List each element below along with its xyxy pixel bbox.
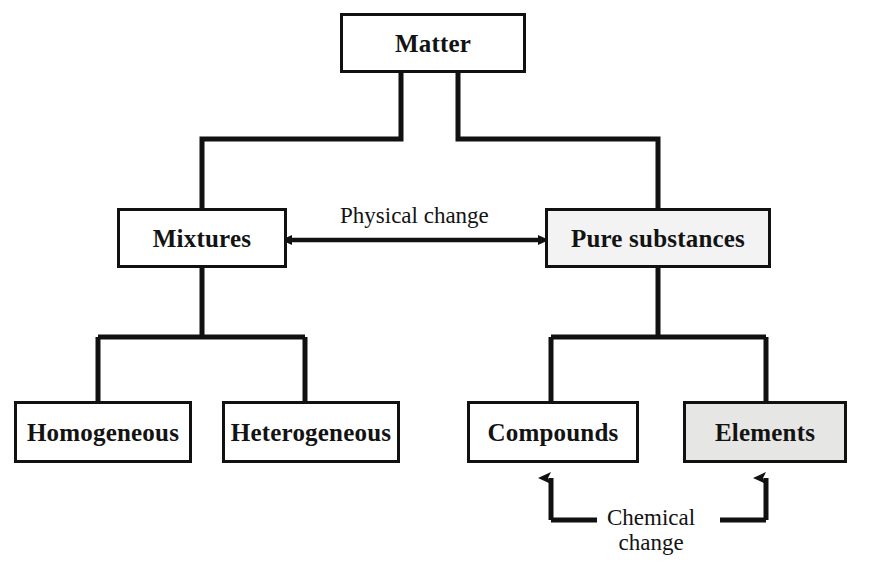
- node-elements-label: Elements: [715, 420, 815, 445]
- node-homogeneous[interactable]: Homogeneous: [14, 401, 192, 463]
- node-compounds-label: Compounds: [487, 420, 618, 445]
- connector-matter-to-pure-substances: [458, 73, 658, 208]
- edge-label-chemical-change: Chemical change: [598, 505, 704, 556]
- edge-label-chemical-change-line1: Chemical: [607, 505, 695, 530]
- node-mixtures[interactable]: Mixtures: [117, 208, 287, 268]
- edge-label-physical-change-text: Physical change: [340, 203, 489, 228]
- node-compounds[interactable]: Compounds: [467, 401, 639, 463]
- connector-matter-to-mixtures: [202, 73, 401, 208]
- node-heterogeneous[interactable]: Heterogeneous: [222, 401, 400, 463]
- node-elements[interactable]: Elements: [683, 401, 847, 463]
- matter-classification-diagram: Matter Mixtures Pure substances Homogene…: [0, 0, 869, 565]
- node-pure-substances-label: Pure substances: [571, 226, 745, 251]
- edge-label-chemical-change-line2: change: [607, 530, 695, 555]
- node-matter[interactable]: Matter: [340, 13, 526, 73]
- node-pure-substances[interactable]: Pure substances: [545, 208, 771, 268]
- connector-lines-layer: [0, 0, 869, 565]
- node-mixtures-label: Mixtures: [153, 226, 251, 251]
- node-heterogeneous-label: Heterogeneous: [231, 420, 391, 445]
- node-matter-label: Matter: [395, 31, 471, 56]
- node-homogeneous-label: Homogeneous: [27, 420, 179, 445]
- edge-label-physical-change: Physical change: [334, 203, 495, 228]
